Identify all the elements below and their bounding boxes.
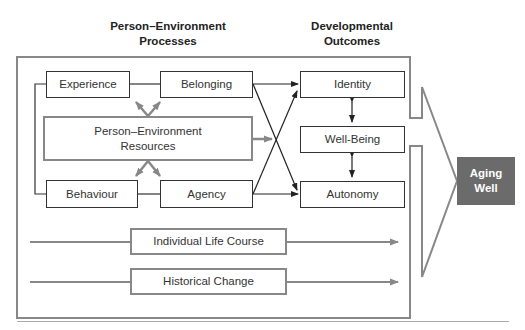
header-developmental-outcomes: Developmental Outcomes	[282, 19, 422, 49]
individual-life-course-box: Individual Life Course	[130, 228, 287, 255]
aging-well-line: Aging	[470, 166, 503, 181]
well-being-box: Well-Being	[300, 126, 405, 153]
autonomy-box: Autonomy	[300, 181, 405, 208]
identity-box: Identity	[300, 71, 405, 98]
experience-box: Experience	[46, 71, 130, 98]
behaviour-box: Behaviour	[46, 180, 138, 208]
belonging-box: Belonging	[160, 71, 253, 98]
bottom-divider	[17, 321, 509, 322]
agency-box: Agency	[160, 180, 253, 208]
header-person-environment-processes: Person–Environment Processes	[88, 19, 248, 49]
historical-change-box: Historical Change	[130, 268, 287, 295]
header-line: Developmental	[282, 19, 422, 34]
resources-line: Resources	[121, 139, 176, 154]
aging-well-box: Aging Well	[457, 157, 515, 205]
header-line: Processes	[88, 34, 248, 49]
person-environment-resources-box: Person–Environment Resources	[43, 116, 253, 161]
aging-well-line: Well	[474, 181, 497, 196]
header-line: Person–Environment	[88, 19, 248, 34]
header-line: Outcomes	[282, 34, 422, 49]
resources-line: Person–Environment	[94, 124, 201, 139]
